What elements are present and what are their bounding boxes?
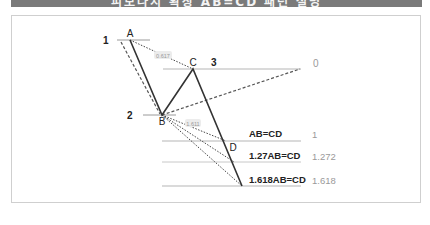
level-number-2: 2 [127, 110, 133, 121]
extension-label-1618: 1.618AB=CD [249, 174, 306, 185]
ratio-tag-0617: 0.617 [156, 53, 170, 59]
point-label-c: C [189, 57, 196, 68]
point-label-b: B [159, 116, 166, 127]
point-label-d: D [229, 142, 236, 153]
extension-label-1272: 1.27AB=CD [249, 150, 301, 161]
level-number-1: 1 [103, 35, 109, 46]
point-label-a: A [127, 28, 134, 39]
ratio-tag-1611: 1.611 [186, 121, 199, 127]
abcd-pattern-line [130, 40, 242, 186]
level-number-3: 3 [211, 57, 217, 68]
extension-value-1: 1 [312, 129, 317, 140]
extension-value-1272: 1.272 [312, 151, 336, 162]
abcd-pattern-diagram: 0.617 1.611 A B C D 1 2 3 0 AB=CD 1 1.27… [0, 0, 430, 225]
dashed-bc-extension [162, 69, 300, 115]
dotted-b-d [162, 115, 226, 141]
extension-label-1: AB=CD [249, 128, 282, 139]
extension-value-1618: 1.618 [312, 175, 336, 186]
level-value-0: 0 [313, 58, 319, 69]
